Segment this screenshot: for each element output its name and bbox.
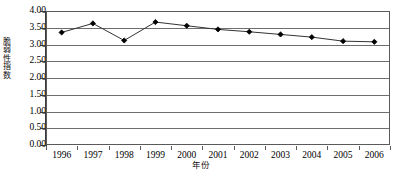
data-point-marker — [59, 30, 64, 35]
data-point-marker — [153, 19, 158, 24]
y-axis-tick-mark — [40, 128, 45, 129]
data-point-marker — [122, 38, 127, 43]
y-axis-tick-mark — [40, 11, 45, 12]
y-axis-tick-mark — [40, 28, 45, 29]
x-axis-tick-label: 2006 — [351, 150, 397, 160]
data-point-marker — [309, 35, 314, 40]
data-point-marker — [90, 21, 95, 26]
data-point-marker — [247, 29, 252, 34]
y-axis-tick-mark — [40, 112, 45, 113]
y-axis-tick-mark — [40, 61, 45, 62]
data-point-marker — [372, 39, 377, 44]
y-axis-tick-mark — [40, 95, 45, 96]
data-point-marker — [184, 23, 189, 28]
x-axis-tick-mark — [390, 146, 391, 150]
y-axis-tick-mark — [40, 78, 45, 79]
chart-container: 脆弱性指数 0.000.501.001.502.002.503.003.504.… — [0, 0, 401, 178]
y-axis-tick-mark — [40, 45, 45, 46]
data-point-marker — [340, 39, 345, 44]
data-point-marker — [215, 27, 220, 32]
data-point-marker — [278, 32, 283, 37]
x-axis-title: 年份 — [0, 161, 401, 170]
y-axis-tick-mark — [40, 145, 45, 146]
